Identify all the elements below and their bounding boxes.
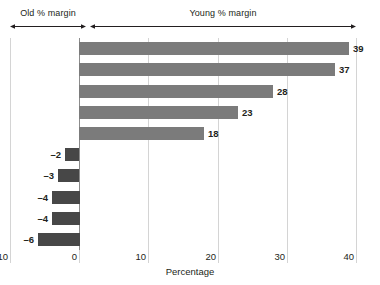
x-axis-title: Percentage	[0, 266, 380, 277]
bar	[79, 106, 238, 119]
x-tick-label: 40	[314, 251, 354, 262]
x-tick-mark	[79, 250, 80, 263]
x-tick-label: 20	[176, 251, 216, 262]
old-margin-span-arrow	[10, 22, 86, 31]
x-tick-label: 0	[37, 251, 77, 262]
x-tick-label: 10	[106, 251, 146, 262]
bar-value-label: 39	[353, 42, 364, 55]
bar	[58, 169, 79, 182]
old-margin-span-label: Old % margin	[10, 8, 86, 18]
bar-value-label: –6	[23, 233, 34, 246]
gridline-40	[356, 38, 357, 250]
bar-value-label: –4	[37, 191, 48, 204]
bar-value-label: 28	[277, 85, 288, 98]
x-tick-mark	[287, 250, 288, 263]
bar-value-label: 18	[208, 127, 219, 140]
x-tick-label: 30	[245, 251, 285, 262]
young-margin-span-arrow	[90, 22, 356, 31]
bar-chart: Old % margin Young % margin ) ) 39372823…	[0, 0, 380, 285]
bar	[52, 212, 80, 225]
bar	[52, 191, 80, 204]
x-tick-mark	[148, 250, 149, 263]
x-tick-label: –10	[0, 251, 8, 262]
bar	[65, 148, 79, 161]
x-axis: –10010203040	[10, 250, 356, 264]
bar	[38, 233, 80, 246]
x-tick-mark	[10, 250, 11, 263]
plot-area: 3937282318–2–3–4–4–6	[10, 38, 356, 250]
bar	[79, 127, 204, 140]
bar-value-label: –2	[50, 148, 61, 161]
bar-value-label: –3	[43, 169, 54, 182]
bar	[79, 42, 349, 55]
gridline--10	[10, 38, 11, 250]
bar-value-label: 37	[339, 63, 350, 76]
bar-value-label: 23	[242, 106, 253, 119]
bar	[79, 63, 335, 76]
x-tick-mark	[356, 250, 357, 263]
bar	[79, 85, 273, 98]
young-margin-span-label: Young % margin	[90, 8, 356, 18]
bar-value-label: –4	[37, 212, 48, 225]
x-tick-mark	[218, 250, 219, 263]
